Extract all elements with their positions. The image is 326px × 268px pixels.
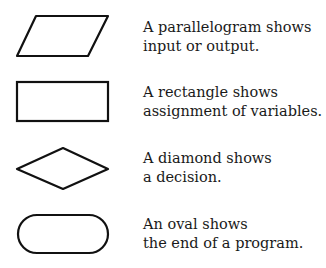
description-line: input or output. bbox=[143, 37, 311, 56]
parallelogram-icon bbox=[14, 14, 110, 58]
rectangle-icon bbox=[14, 80, 110, 124]
oval-icon bbox=[14, 212, 110, 256]
parallelogram-description: A parallelogram shows input or output. bbox=[143, 18, 311, 56]
description-line: assignment of variables. bbox=[143, 102, 322, 121]
rectangle-description: A rectangle shows assignment of variable… bbox=[143, 83, 322, 121]
description-line: A rectangle shows bbox=[143, 83, 322, 102]
description-line: the end of a program. bbox=[143, 234, 303, 253]
description-line: An oval shows bbox=[143, 215, 303, 234]
description-line: A diamond shows bbox=[143, 149, 272, 168]
diamond-description: A diamond shows a decision. bbox=[143, 149, 272, 187]
description-line: a decision. bbox=[143, 168, 272, 187]
description-line: A parallelogram shows bbox=[143, 18, 311, 37]
oval-description: An oval shows the end of a program. bbox=[143, 215, 303, 253]
diamond-icon bbox=[14, 146, 110, 190]
